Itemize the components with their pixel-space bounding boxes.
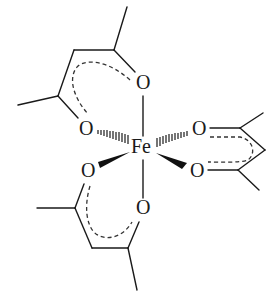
wedge-bond-right	[156, 153, 187, 169]
c-o-bond	[58, 96, 78, 118]
atom-o-right-upper: O	[192, 117, 206, 139]
backbone-bond	[75, 208, 92, 248]
c-o-bond	[114, 50, 135, 72]
methyl-bond-bottom	[128, 248, 137, 290]
hashed-bond-right	[157, 131, 187, 147]
wedge-bond-left	[98, 152, 130, 168]
atom-o-left: O	[79, 117, 93, 139]
atom-o-bottom-left: O	[81, 159, 95, 181]
atom-o-right-lower: O	[190, 159, 204, 181]
methyl-bond-left	[18, 96, 58, 105]
delocalization-arc	[208, 137, 253, 162]
atom-o-bottom: O	[136, 196, 150, 218]
atom-fe: Fe	[131, 135, 151, 157]
delocalization-arc	[87, 186, 132, 238]
methyl-bond	[238, 170, 259, 190]
c-o-bond	[128, 222, 139, 248]
methyl-bond-top	[114, 7, 127, 50]
ligand-right	[208, 113, 265, 190]
backbone-bond	[58, 50, 74, 96]
backbone-bond	[240, 128, 265, 150]
ligand-bottom	[37, 184, 139, 290]
methyl-bond	[240, 113, 263, 128]
backbone-bond	[238, 150, 265, 170]
delocalization-arc	[73, 62, 130, 114]
fe-acac3-structure: Fe O O O O O O	[0, 0, 275, 304]
hashed-bond-left	[98, 130, 128, 144]
c-o-bond	[75, 184, 84, 208]
atom-labels: Fe O O O O O O	[79, 71, 206, 218]
ligand-top	[18, 7, 135, 118]
atom-o-top: O	[136, 71, 150, 93]
